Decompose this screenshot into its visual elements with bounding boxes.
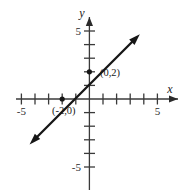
y-axis-arrow-icon	[86, 17, 93, 26]
x-tick-label-5: 5	[155, 105, 161, 117]
graph-canvas: -5 5 x 5 -5 y	[0, 0, 190, 194]
point-label--2-0: (-2,0)	[52, 105, 76, 117]
point-marker--2-0	[60, 96, 65, 101]
line-segment	[36, 40, 135, 139]
x-axis-label: x	[166, 82, 173, 96]
plotted-line-group	[30, 34, 140, 144]
x-axis-group: -5 5 x	[16, 82, 178, 117]
y-axis-label: y	[78, 6, 85, 20]
x-tick-label--5: -5	[17, 105, 27, 117]
point-label-0-2: (0,2)	[100, 67, 121, 79]
y-tick-label-5: 5	[76, 25, 82, 37]
point-marker-0-2	[87, 69, 92, 74]
coordinate-graph-figure: -5 5 x 5 -5 y	[0, 0, 190, 194]
x-axis-arrow-icon	[169, 95, 178, 102]
y-tick-label--5: -5	[72, 161, 82, 173]
